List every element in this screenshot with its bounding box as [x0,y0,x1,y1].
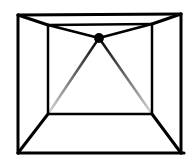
apex-node [94,33,104,43]
perspective-box-diagram [0,0,191,160]
